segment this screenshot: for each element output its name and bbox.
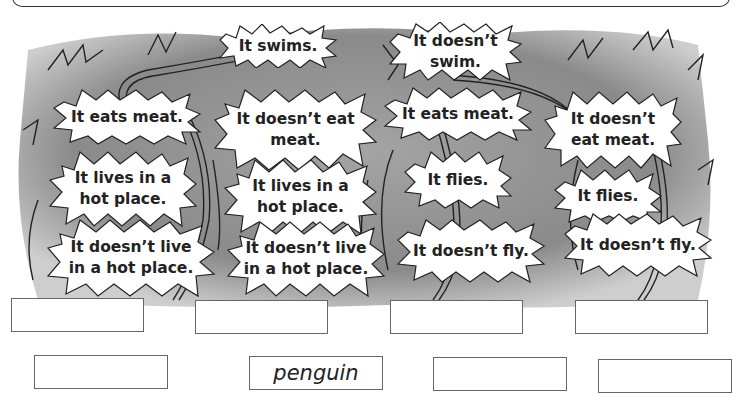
bubble-it-doesnt-live-in-a-hot-place-2: It doesn’t live in a hot place. [226, 220, 386, 298]
bubble-it-doesnt-live-in-a-hot-place-1: It doesn’t live in a hot place. [46, 218, 216, 298]
bubble-it-eats-meat-2: It eats meat. [383, 86, 533, 142]
bubble-it-doesnt-fly-2: It doesn’t fly. [563, 212, 713, 278]
decision-tree-illustration: It swims. It doesn’t swim. It eats meat.… [8, 20, 718, 310]
bubble-it-doesnt-swim: It doesn’t swim. [388, 22, 523, 82]
answer-box-7[interactable] [433, 357, 567, 391]
answer-box-4[interactable] [575, 300, 708, 334]
bubble-it-swims: It swims. [218, 24, 338, 68]
answer-box-2[interactable] [195, 300, 328, 334]
bubble-it-eats-meat-1: It eats meat. [52, 88, 202, 146]
header-frame [12, 0, 730, 7]
bubble-it-doesnt-eat-meat-2: It doesn’t eat meat. [543, 90, 683, 170]
bubble-it-flies-1: It flies. [403, 150, 513, 210]
answer-box-1[interactable] [11, 298, 144, 332]
answer-box-5[interactable] [34, 355, 168, 389]
answer-box-3[interactable] [390, 300, 523, 334]
bubble-it-doesnt-fly-1: It doesn’t fly. [396, 218, 546, 284]
answer-box-8[interactable] [598, 359, 732, 393]
bubble-it-lives-in-a-hot-place-1: It lives in a hot place. [48, 150, 198, 228]
answer-box-penguin[interactable]: penguin [249, 356, 383, 390]
